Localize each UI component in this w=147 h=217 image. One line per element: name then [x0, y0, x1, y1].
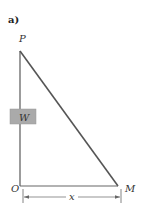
weight-label: W	[19, 112, 30, 123]
arrow-left-icon	[24, 195, 29, 199]
dimension-x-label: x	[69, 191, 75, 202]
weight-block: W	[10, 109, 36, 124]
arrow-right-icon	[115, 195, 120, 199]
point-o-label: O	[11, 183, 19, 194]
point-p-label: P	[18, 33, 26, 44]
panel-label: a)	[8, 14, 19, 25]
dimension-x: x	[23, 189, 121, 203]
pulley-diagram: a) P W O M x	[0, 0, 147, 217]
point-m-label: M	[124, 183, 136, 194]
